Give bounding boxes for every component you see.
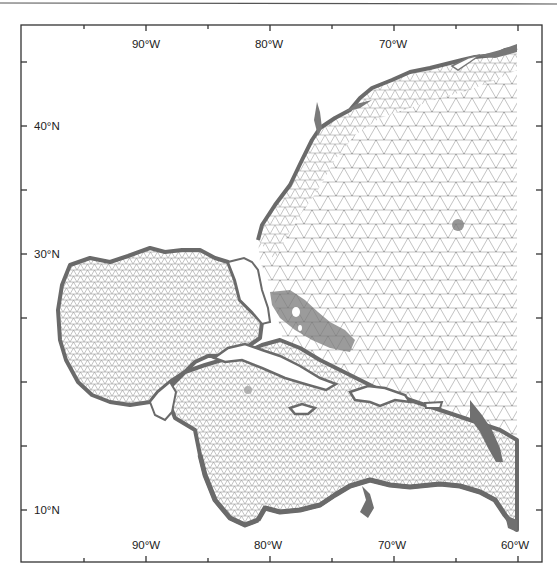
top-label-70w: 70°W [379, 38, 407, 50]
puerto-rico-island [425, 402, 442, 408]
left-label-30n: 30°N [34, 248, 60, 260]
bahamas-island [298, 325, 302, 331]
top-label-80w: 80°W [255, 38, 283, 50]
bottom-label-80w: 80°W [254, 539, 282, 551]
bahamas-island [292, 307, 300, 317]
lake-maracaibo [360, 486, 374, 518]
top-label-90w: 90°W [132, 38, 160, 50]
bottom-label-70w: 70°W [378, 539, 406, 551]
left-label-10n: 10°N [34, 504, 60, 516]
bermuda-refinement [452, 219, 464, 231]
bottom-label-60w: 60°W [501, 539, 529, 551]
mesh-map: 90°W 80°W 70°W 90°W 80°W 70°W 60°W 40°N … [0, 0, 557, 579]
left-label-40n: 40°N [34, 120, 60, 132]
caribbean-refinement [244, 386, 252, 394]
top-rule [0, 3, 557, 4]
bottom-label-90w: 90°W [132, 539, 160, 551]
